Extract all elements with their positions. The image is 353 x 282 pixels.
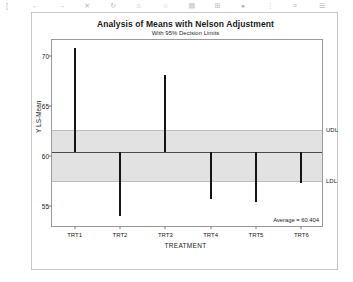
x-tick-mark (256, 226, 257, 229)
y-tick-label: 60 (42, 153, 49, 160)
chart-figure-card: Analysis of Means with Nelson Adjustment… (31, 12, 338, 270)
x-tick-label-trt1: TRT1 (67, 232, 82, 238)
chart-title: Analysis of Means with Nelson Adjustment (32, 19, 339, 29)
ldl-label: LDL (326, 178, 337, 184)
toolbar-icon-12[interactable]: ☰ (319, 1, 325, 10)
toolbar-icon-1[interactable]: ← (32, 1, 39, 10)
x-tick-label-trt6: TRT6 (294, 232, 309, 238)
toolbar-strip: [←→✕↻⌂☆▤⊞●⋮≡☰ (0, 0, 353, 11)
toolbar-icon-4[interactable]: ↻ (110, 1, 116, 10)
anom-bar (300, 152, 302, 183)
chart-subtitle: With 95% Decision Limits (32, 30, 339, 36)
toolbar-icon-5[interactable]: ⌂ (136, 1, 140, 10)
toolbar-icon-3[interactable]: ✕ (84, 1, 90, 10)
x-tick-mark (210, 226, 211, 229)
anom-bar (210, 152, 212, 199)
y-tick-mark (49, 56, 52, 57)
x-tick-label-trt4: TRT4 (203, 232, 218, 238)
y-tick-label: 70 (42, 53, 49, 60)
lower-decision-limit-line (52, 181, 322, 182)
upper-decision-limit-line (52, 130, 322, 131)
y-tick-mark (49, 106, 52, 107)
toolbar-icon-6[interactable]: ☆ (162, 1, 168, 10)
toolbar-icon-11[interactable]: ≡ (293, 1, 297, 10)
anom-bar (164, 75, 166, 152)
toolbar-icon-10[interactable]: ⋮ (267, 1, 274, 10)
x-tick-label-trt2: TRT2 (113, 232, 128, 238)
anom-bar (74, 48, 76, 152)
x-tick-mark (74, 226, 75, 229)
y-tick-label: 65 (42, 103, 49, 110)
x-tick-mark (120, 226, 121, 229)
x-axis-label: TREATMENT (32, 242, 339, 249)
x-tick-mark (165, 226, 166, 229)
x-tick-label-trt3: TRT3 (158, 232, 173, 238)
center-line (52, 152, 322, 153)
plot-area: 70656055TRT1TRT2TRT3TRT4TRT5TRT6UDLLDLAv… (51, 39, 323, 227)
toolbar-icon-8[interactable]: ⊞ (215, 1, 221, 10)
toolbar-icon-2[interactable]: → (58, 1, 65, 10)
toolbar-icon-9[interactable]: ● (241, 1, 245, 10)
average-annotation: Average = 60.404 (273, 217, 319, 223)
x-tick-mark (301, 226, 302, 229)
y-tick-label: 55 (42, 203, 49, 210)
toolbar-icon-0[interactable]: [ (6, 1, 8, 10)
x-tick-label-trt5: TRT5 (249, 232, 264, 238)
toolbar-icon-7[interactable]: ▤ (189, 1, 196, 10)
lower-decision-band (52, 152, 322, 181)
y-tick-mark (49, 206, 52, 207)
y-tick-mark (49, 156, 52, 157)
anom-bar (255, 152, 257, 202)
udl-label: UDL (326, 127, 338, 133)
anom-bar (119, 152, 121, 216)
upper-decision-band (52, 130, 322, 152)
